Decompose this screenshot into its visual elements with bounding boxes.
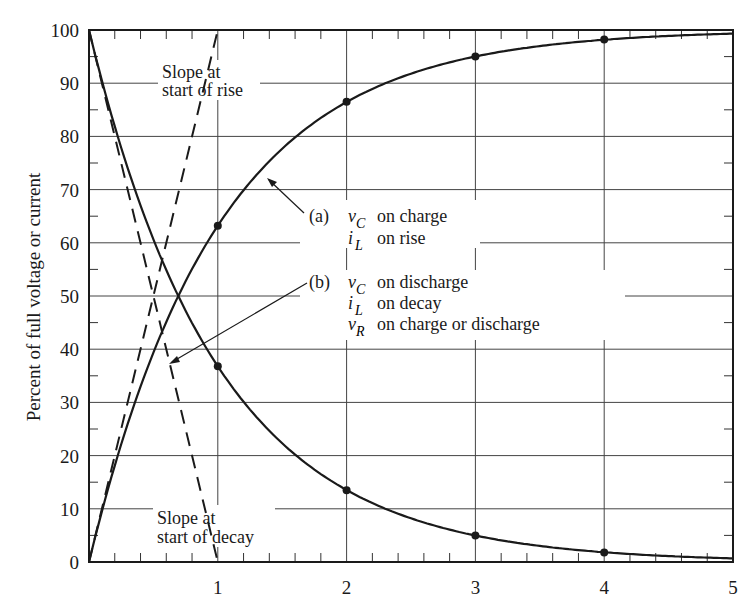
y-tick-label: 70 <box>60 180 79 201</box>
slope-decay-label-line1: Slope at <box>157 508 216 528</box>
series-a-line1-sub: C <box>356 216 366 231</box>
y-tick-label: 40 <box>60 339 79 360</box>
series-b-line3-text: on charge or discharge <box>377 314 540 334</box>
slope-rise-label-line1: Slope at <box>162 62 221 82</box>
series-a-line2-var: i <box>348 228 353 248</box>
series-b-line2-var: i <box>348 293 353 313</box>
series-b-line2-text: on decay <box>377 293 441 313</box>
y-tick-label: 30 <box>60 392 79 413</box>
y-tick-label: 100 <box>51 20 80 41</box>
y-axis-title: Percent of full voltage or current <box>23 172 44 421</box>
series-a-line1-var: v <box>348 206 356 226</box>
x-tick-label: 3 <box>471 577 481 598</box>
y-tick-label: 20 <box>60 446 79 467</box>
x-tick-label: 4 <box>599 577 609 598</box>
x-axis-tick-labels: 12345 <box>213 577 738 598</box>
series-b-line1-text: on discharge <box>377 272 468 292</box>
y-tick-label: 60 <box>60 233 79 254</box>
series-b-data-point <box>600 548 608 556</box>
x-tick-label: 1 <box>213 577 223 598</box>
annotation-arrow-b <box>169 283 307 364</box>
y-axis-tick-labels: 0102030405060708090100 <box>51 20 80 573</box>
x-tick-label: 2 <box>342 577 352 598</box>
series-a-line2-sub: L <box>354 238 363 253</box>
series-b-line3-sub: R <box>355 324 365 339</box>
annotation-arrow-a <box>267 178 304 213</box>
series-a-line1-text: on charge <box>377 206 447 226</box>
series-a-line2-text: on rise <box>377 228 426 248</box>
series-b-line1-var: v <box>348 272 356 292</box>
series-a-data-point <box>343 98 351 106</box>
series-b-tag: (b) <box>309 272 330 293</box>
slope-decay-label-line2: start of decay <box>157 527 254 547</box>
series-a-tag: (a) <box>309 206 329 227</box>
x-tick-label: 5 <box>728 577 738 598</box>
series-a-data-point <box>600 36 608 44</box>
y-tick-label: 50 <box>60 286 79 307</box>
slope-rise-label-line2: start of rise <box>162 80 243 100</box>
y-tick-label: 90 <box>60 73 79 94</box>
series-b-line3-var: v <box>348 314 356 334</box>
y-tick-label: 0 <box>70 552 80 573</box>
series-b-data-point <box>214 362 222 370</box>
series-b-data-point <box>471 531 479 539</box>
series-a-data-point <box>214 222 222 230</box>
y-tick-label: 80 <box>60 126 79 147</box>
series-b-data-point <box>343 486 351 494</box>
series-a-data-point <box>471 53 479 61</box>
y-tick-label: 10 <box>60 499 79 520</box>
time-constant-chart: 0102030405060708090100 12345 Percent of … <box>0 0 748 612</box>
series-b-line1-sub: C <box>356 282 366 297</box>
